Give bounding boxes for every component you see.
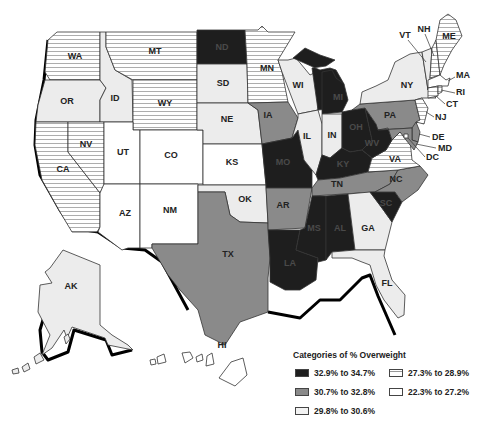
aleutian-island-2[interactable] (22, 363, 30, 372)
label-MO: MO (276, 157, 291, 167)
legend-swatch-hatched (389, 369, 403, 377)
label-TN: TN (331, 179, 343, 189)
legend-label: 27.3% to 28.9% (408, 368, 469, 378)
leader-CT (436, 96, 445, 104)
label-OR: OR (60, 96, 74, 106)
aleutian-island-3[interactable] (12, 368, 19, 374)
label-NH: NH (418, 24, 431, 34)
legend-item-27-3-to-28-9: 27.3% to 28.9% (389, 368, 469, 378)
label-WA: WA (68, 51, 83, 61)
legend-label: 29.8% to 30.6% (314, 406, 375, 416)
label-AR: AR (277, 200, 290, 210)
label-ME: ME (442, 31, 456, 41)
label-NE: NE (221, 114, 234, 124)
label-RI: RI (456, 87, 465, 97)
legend-label: 30.7% to 32.8% (314, 387, 375, 397)
leader-DE (419, 134, 430, 137)
label-OK: OK (238, 194, 252, 204)
state-ME[interactable] (436, 14, 462, 75)
legend-swatch-dark (295, 369, 309, 377)
label-CT: CT (446, 99, 458, 109)
legend-swatch-white (389, 388, 403, 396)
label-MS: MS (307, 223, 321, 233)
label-UT: UT (117, 147, 129, 157)
legend-label: 32.9% to 34.7% (314, 368, 375, 378)
label-NM: NM (163, 205, 177, 215)
label-NV: NV (80, 139, 93, 149)
label-MT: MT (149, 46, 162, 56)
label-ID: ID (111, 93, 121, 103)
legend-item-32-9-to-34-7: 32.9% to 34.7% (295, 368, 375, 378)
label-ND: ND (216, 42, 229, 52)
label-SD: SD (217, 78, 230, 88)
label-NJ: NJ (435, 112, 447, 122)
label-NY: NY (401, 80, 414, 90)
label-DC: DC (426, 152, 439, 162)
label-MN: MN (260, 63, 274, 73)
legend-title: Categories of % Overweight (293, 350, 406, 360)
label-KS: KS (226, 157, 239, 167)
legend-item-22-3-to-27-2: 22.3% to 27.2% (389, 387, 469, 397)
legend-item-30-7-to-32-8: 30.7% to 32.8% (295, 387, 375, 397)
label-FL: FL (382, 278, 393, 288)
state-FL[interactable] (332, 250, 405, 318)
label-WY: WY (158, 98, 173, 108)
legend-item-29-8-to-30-6: 29.8% to 30.6% (295, 406, 375, 416)
label-MA: MA (456, 70, 470, 80)
label-OH: OH (349, 122, 363, 132)
label-IN: IN (328, 130, 337, 140)
label-GA: GA (361, 223, 375, 233)
label-CA: CA (57, 164, 70, 174)
label-AL: AL (334, 223, 346, 233)
state-HI-niihau[interactable] (150, 359, 156, 365)
label-NC: NC (390, 174, 403, 184)
label-IL: IL (303, 131, 312, 141)
state-HI-kauai[interactable] (157, 354, 166, 364)
label-CO: CO (164, 150, 178, 160)
label-TX: TX (222, 249, 234, 259)
label-WV: WV (365, 138, 380, 148)
state-NM[interactable] (140, 184, 198, 248)
label-AZ: AZ (119, 208, 131, 218)
label-VT: VT (399, 30, 411, 40)
label-HI: HI (218, 340, 227, 350)
label-DE: DE (432, 132, 445, 142)
legend: Categories of % Overweight 32.9% to 34.7… (293, 350, 483, 421)
leader-RI (441, 90, 455, 93)
label-WI: WI (293, 80, 304, 90)
label-PA: PA (384, 110, 396, 120)
label-AK: AK (65, 281, 78, 291)
legend-swatch-gray (295, 388, 309, 396)
legend-label: 22.3% to 27.2% (408, 387, 469, 397)
state-HI-oahu[interactable] (182, 352, 193, 363)
state-AK[interactable] (38, 250, 133, 355)
state-DC[interactable] (404, 134, 408, 138)
label-MI: MI (333, 92, 343, 102)
label-KY: KY (337, 159, 350, 169)
legend-swatch-light (295, 407, 309, 415)
state-HI-maui[interactable] (206, 353, 214, 366)
state-HI-big-island[interactable] (219, 358, 247, 386)
label-LA: LA (284, 258, 296, 268)
label-SC: SC (380, 198, 393, 208)
state-HI-molokai[interactable] (196, 354, 203, 362)
label-IA: IA (264, 110, 274, 120)
leader-NJ (426, 112, 434, 117)
leader-MD (416, 144, 436, 148)
label-MD: MD (438, 143, 452, 153)
label-VA: VA (389, 154, 401, 164)
